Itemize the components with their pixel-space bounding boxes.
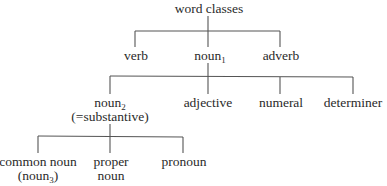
node-label: adverb [263,48,300,63]
node-adjective: adjective [184,96,233,109]
node-noun1: noun1 [194,49,226,62]
node-pronoun: pronoun [162,155,207,168]
node-label-line2: noun [93,169,128,182]
node-proper-noun: proper noun [93,155,128,182]
edge-level2-bar [110,76,353,77]
node-adverb: adverb [263,49,300,62]
node-label: noun [194,48,221,63]
node-label: determiner [324,95,382,110]
node-label: noun [94,95,121,110]
node-common-noun: common noun (noun3) [0,155,77,182]
word-class-tree: word classes verb noun1 adverb noun2 (=s… [0,0,387,186]
node-label: word classes [175,1,244,16]
node-numeral: numeral [259,96,303,109]
node-verb: verb [124,49,148,62]
node-label-line2-close: ) [54,168,59,183]
node-label: verb [124,48,148,63]
node-label-line2: (noun [18,168,50,183]
node-label-line2: (=substantive) [71,110,148,123]
node-determiner: determiner [324,96,382,109]
node-label: adjective [184,95,233,110]
node-label: proper [93,155,128,168]
node-label: common noun [0,155,77,168]
node-label: numeral [259,95,303,110]
node-label: pronoun [162,154,207,169]
node-subscript: 1 [221,55,226,65]
node-noun2: noun2 (=substantive) [71,96,148,123]
node-word-classes: word classes [175,2,244,15]
